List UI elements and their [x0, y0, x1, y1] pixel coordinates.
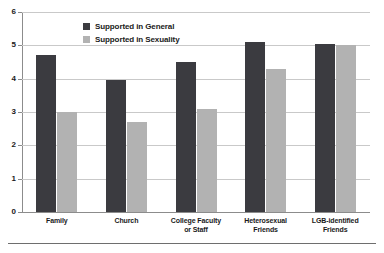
y-tick-label-1: 1	[2, 175, 16, 183]
category-label-line: LGB-identified	[294, 216, 376, 225]
bar-chart: 0123456 FamilyChurchCollege Facultyor St…	[0, 0, 384, 253]
bar-sexuality-3	[266, 69, 286, 212]
footer-divider	[8, 243, 376, 244]
y-tick-label-0: 0	[2, 208, 16, 216]
y-tick-label-4: 4	[2, 75, 16, 83]
y-tick-mark-0	[18, 212, 22, 213]
legend-label-general: Supported in General	[95, 22, 174, 31]
bar-general-2	[176, 62, 196, 212]
y-tick-label-5: 5	[2, 41, 16, 49]
legend-swatch-icon-general	[83, 23, 90, 30]
gridline-0	[22, 212, 370, 213]
y-tick-label-3: 3	[2, 108, 16, 116]
bar-general-0	[36, 55, 56, 212]
bar-general-3	[245, 42, 265, 212]
bar-sexuality-2	[197, 109, 217, 212]
bar-sexuality-0	[57, 112, 77, 212]
legend-item-supported-in-general: Supported in General	[83, 21, 179, 32]
bar-sexuality-4	[336, 45, 356, 212]
category-label-line: Friends	[294, 225, 376, 234]
bar-sexuality-1	[127, 122, 147, 212]
legend-item-supported-in-sexuality: Supported in Sexuality	[83, 34, 179, 45]
x-axis-label-4: LGB-identifiedFriends	[294, 216, 376, 234]
legend: Supported in General Supported in Sexual…	[83, 21, 179, 47]
legend-swatch-icon-sexuality	[83, 36, 90, 43]
bar-general-4	[315, 44, 335, 212]
y-tick-label-6: 6	[2, 8, 16, 16]
plot-area	[22, 12, 370, 212]
bar-general-1	[106, 80, 126, 212]
y-tick-label-2: 2	[2, 141, 16, 149]
legend-label-sexuality: Supported in Sexuality	[95, 35, 179, 44]
